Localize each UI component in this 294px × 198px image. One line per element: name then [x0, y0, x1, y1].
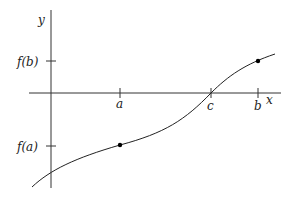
tick-label-c: c [207, 99, 214, 113]
x-axis-label: x [266, 93, 273, 107]
point-b-fb [256, 59, 260, 63]
y-axis-label: y [37, 13, 45, 27]
function-graph-diagram: y x a c b f(b) f(a) [0, 0, 294, 198]
function-curve [32, 54, 275, 187]
tick-label-a: a [116, 97, 123, 111]
tick-label-fa: f(a) [16, 140, 38, 154]
tick-label-b: b [254, 99, 262, 113]
point-a-fa [118, 143, 122, 147]
tick-label-fb: f(b) [16, 55, 39, 69]
